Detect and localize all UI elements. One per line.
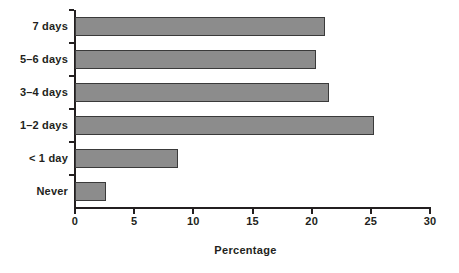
y-axis-tick: [69, 174, 74, 176]
x-axis-tick-label: 0: [55, 215, 95, 227]
x-axis-title: Percentage: [0, 244, 459, 256]
x-axis-tick: [370, 209, 372, 214]
bar: [75, 116, 374, 135]
y-axis-tick: [69, 75, 74, 77]
y-axis-tick: [69, 9, 74, 11]
x-axis-tick: [311, 209, 313, 214]
x-axis-tick-label: 20: [292, 215, 332, 227]
y-axis-tick-label: 3–4 days: [20, 86, 68, 98]
y-axis-tick: [69, 141, 74, 143]
x-axis-tick-label: 5: [114, 215, 154, 227]
bars-container: [75, 10, 430, 208]
x-axis-title-text: Percentage: [214, 244, 276, 256]
bar: [75, 50, 316, 69]
y-axis-tick-label: Never: [36, 185, 68, 197]
bar: [75, 149, 178, 168]
bar: [75, 182, 106, 201]
y-axis-tick: [69, 42, 74, 44]
x-axis-tick-label: 25: [351, 215, 391, 227]
x-axis-tick: [192, 209, 194, 214]
bar: [75, 83, 329, 102]
y-axis-tick-label: 7 days: [33, 20, 68, 32]
y-axis-tick-label: 5–6 days: [20, 53, 68, 65]
y-axis-tick-label: 1–2 days: [20, 119, 68, 131]
bar: [75, 17, 325, 36]
x-axis-tick: [429, 209, 431, 214]
y-axis-tick: [69, 108, 74, 110]
x-axis-tick: [74, 209, 76, 214]
y-axis-tick-label: < 1 day: [29, 152, 68, 164]
x-axis-tick: [252, 209, 254, 214]
x-axis-tick-label: 15: [233, 215, 273, 227]
x-axis-tick-label: 10: [173, 215, 213, 227]
x-axis-tick: [133, 209, 135, 214]
bar-chart: 051015202530 Never< 1 day1–2 days3–4 day…: [0, 0, 459, 273]
x-axis-tick-label: 30: [410, 215, 450, 227]
